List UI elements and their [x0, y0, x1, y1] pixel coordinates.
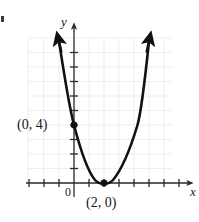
y-intercept-label: (0, 4) [17, 118, 47, 132]
x-axis-label: x [190, 185, 196, 198]
point-marker-y-intercept [71, 122, 78, 129]
graph-canvas [0, 0, 199, 222]
parabola-figure: y x 0 (0, 4) (2, 0) [0, 0, 199, 222]
origin-label: 0 [65, 186, 71, 198]
y-axis-label: y [61, 15, 67, 28]
point-marker-vertex [101, 180, 108, 187]
grid-lines [28, 38, 172, 183]
vertex-label: (2, 0) [86, 196, 116, 210]
